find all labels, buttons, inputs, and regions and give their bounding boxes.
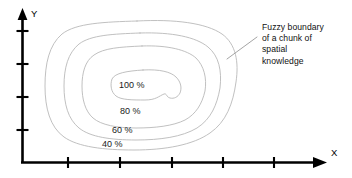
contour-label-100: 100 % (119, 80, 145, 90)
annotation-text: Fuzzy boundary of a chunk of spatial kno… (262, 22, 324, 67)
contour-diagram: Y X 100 % 80 % 60 % 40 % Fuzzy boundary … (0, 0, 352, 178)
contour-label-80: 80 % (120, 106, 141, 116)
annotation-line-3: spatial (262, 44, 324, 55)
annotation-line-2: of a chunk of (262, 33, 324, 44)
annotation-leader-line (227, 37, 257, 59)
x-axis-arrowhead (313, 157, 327, 168)
y-axis-label: Y (31, 8, 38, 19)
contour-label-group: 100 % 80 % 60 % 40 % (102, 80, 145, 149)
y-axis-arrowhead (18, 8, 28, 20)
annotation-line-4: knowledge (262, 56, 324, 67)
y-axis: Y (17, 8, 39, 163)
contour-label-60: 60 % (112, 125, 133, 135)
x-axis-label: X (331, 147, 338, 158)
annotation-line-1: Fuzzy boundary (262, 22, 324, 33)
contour-label-40: 40 % (102, 139, 123, 149)
x-axis: X (21, 147, 338, 168)
